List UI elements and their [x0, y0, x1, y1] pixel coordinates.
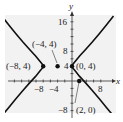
x-tick-neg4: −4	[49, 84, 59, 94]
point-x-intercept	[77, 79, 81, 83]
x-tick-neg8: −8	[34, 84, 44, 94]
label-left-vertex: (−8, 4)	[6, 61, 31, 71]
y-tick-neg8: −8	[58, 105, 68, 115]
x-axis-label: x	[115, 76, 120, 86]
x-tick-8: 8	[98, 84, 103, 94]
point-left-vertex	[41, 64, 45, 68]
y-tick-4: 4	[64, 61, 69, 71]
y-tick-8: 8	[63, 46, 68, 56]
y-axis-arrow-icon	[70, 11, 74, 16]
label-x-intercept: (2, 0)	[76, 105, 96, 115]
label-right-vertex: (0, 4)	[76, 61, 96, 71]
point-right-vertex	[70, 64, 74, 68]
label-center: (−4, 4)	[32, 39, 57, 49]
y-axis-label: y	[68, 1, 73, 11]
point-center	[55, 64, 59, 68]
y-tick-16: 16	[58, 17, 68, 27]
hyperbola-graph: y x 16 8 4 −8 −8 −4 8 (−8, 4) (−4, 4) (0…	[0, 0, 123, 122]
